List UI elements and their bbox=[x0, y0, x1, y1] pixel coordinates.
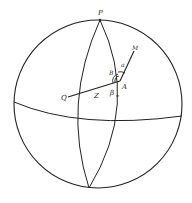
equator bbox=[14, 102, 182, 121]
meridian-right bbox=[89, 20, 118, 188]
label-m: M bbox=[131, 44, 139, 51]
label-a: A bbox=[121, 83, 127, 91]
label-angle-alpha: a bbox=[121, 61, 125, 68]
label-z: Z bbox=[93, 92, 99, 100]
label-beta-sub: * bbox=[116, 93, 119, 100]
sphere-outline bbox=[14, 20, 182, 188]
label-angle-beta: β bbox=[109, 89, 114, 97]
label-pole: P bbox=[97, 9, 103, 17]
pole-point bbox=[99, 19, 101, 21]
meridian-left bbox=[78, 20, 100, 188]
label-q: Q bbox=[61, 94, 67, 102]
label-angle-b: B bbox=[108, 69, 114, 76]
diagram-canvas: P Q A M Z B a β * bbox=[0, 0, 192, 203]
sphere-diagram: P Q A M Z B a β * bbox=[0, 0, 192, 203]
